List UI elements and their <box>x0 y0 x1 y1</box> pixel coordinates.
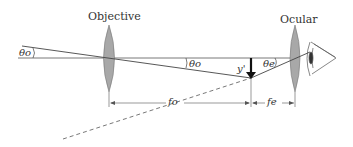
theta-o-left-label: θo <box>19 47 31 58</box>
fo-arrow-left <box>110 101 115 105</box>
theta-o-mid-label: θo <box>189 58 201 69</box>
eye-icon <box>307 42 336 76</box>
fe-arrow-left <box>252 101 257 105</box>
focal-objective-label: fo <box>168 96 178 107</box>
focal-ocular-label: fe <box>267 96 277 107</box>
theta-o-left-arc <box>33 48 35 58</box>
fe-arrow-right <box>289 101 294 105</box>
theta-e-label: θe <box>263 58 275 69</box>
image-height-label: y' <box>237 63 245 74</box>
ocular-label: Ocular <box>280 13 318 26</box>
dashed-line <box>63 78 251 139</box>
theta-o-mid-arc <box>186 58 187 68</box>
ocular-ray <box>251 52 310 78</box>
incoming-ray <box>22 46 251 78</box>
objective-label: Objective <box>88 10 141 23</box>
fo-arrow-right <box>245 101 250 105</box>
